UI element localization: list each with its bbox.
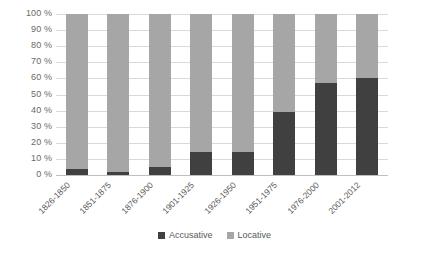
legend-item[interactable]: Accusative: [158, 231, 213, 240]
y-tick-label: 50 %: [0, 90, 52, 99]
y-tick-label: 90 %: [0, 25, 52, 34]
y-tick-label: 100 %: [0, 9, 52, 18]
y-tick-label: 30 %: [0, 122, 52, 131]
bar-segment-locative[interactable]: [107, 14, 129, 172]
gridline: [56, 111, 388, 112]
gridline: [56, 159, 388, 160]
bar-group[interactable]: [149, 14, 171, 175]
bar-group[interactable]: [356, 14, 378, 175]
plot-area: [56, 14, 388, 175]
gridline: [56, 143, 388, 144]
chart-legend: AccusativeLocative: [0, 231, 429, 240]
gridline: [56, 14, 388, 15]
bar-group[interactable]: [190, 14, 212, 175]
bar-segment-locative[interactable]: [190, 14, 212, 152]
bar-segment-accusative[interactable]: [273, 112, 295, 175]
legend-item[interactable]: Locative: [227, 231, 272, 240]
bar-group[interactable]: [315, 14, 337, 175]
legend-swatch-icon: [227, 232, 234, 239]
gridline: [56, 30, 388, 31]
legend-label: Accusative: [169, 231, 213, 240]
bar-segment-accusative[interactable]: [190, 152, 212, 175]
x-axis: 1826-18501851-18751876-19001901-19251926…: [0, 176, 429, 226]
gridline: [56, 62, 388, 63]
bar-segment-accusative[interactable]: [232, 152, 254, 175]
y-tick-label: 10 %: [0, 154, 52, 163]
bar-segment-locative[interactable]: [356, 14, 378, 78]
legend-label: Locative: [238, 231, 272, 240]
bar-group[interactable]: [232, 14, 254, 175]
gridline: [56, 95, 388, 96]
legend-swatch-icon: [158, 232, 165, 239]
stacked-bar-chart: 0 %10 %20 %30 %40 %50 %60 %70 %80 %90 %1…: [0, 0, 429, 260]
gridline: [56, 46, 388, 47]
bar-segment-accusative[interactable]: [356, 78, 378, 175]
bar-segment-accusative[interactable]: [315, 83, 337, 175]
bar-segment-locative[interactable]: [66, 14, 88, 169]
y-tick-label: 20 %: [0, 138, 52, 147]
bar-segment-locative[interactable]: [149, 14, 171, 167]
bar-group[interactable]: [107, 14, 129, 175]
bar-segment-accusative[interactable]: [149, 167, 171, 175]
y-tick-label: 70 %: [0, 57, 52, 66]
gridline: [56, 127, 388, 128]
bar-segment-locative[interactable]: [273, 14, 295, 112]
y-tick-label: 80 %: [0, 41, 52, 50]
bar-group[interactable]: [66, 14, 88, 175]
y-tick-label: 60 %: [0, 73, 52, 82]
gridline: [56, 78, 388, 79]
y-tick-label: 40 %: [0, 106, 52, 115]
bar-segment-locative[interactable]: [232, 14, 254, 152]
bar-group[interactable]: [273, 14, 295, 175]
bar-segment-locative[interactable]: [315, 14, 337, 83]
